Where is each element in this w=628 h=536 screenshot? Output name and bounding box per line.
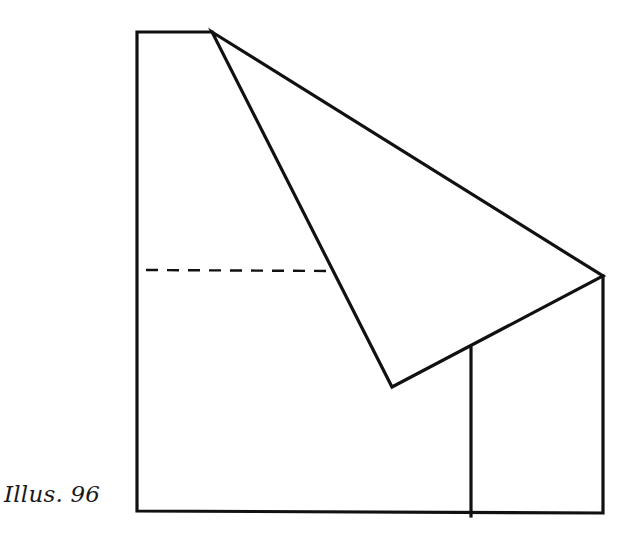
sheet-outline — [137, 32, 603, 513]
fold-diagram — [0, 0, 628, 536]
dashed-fold-line — [146, 270, 332, 271]
folded-flap — [212, 32, 603, 387]
illustration-caption: Illus. 96 — [4, 481, 100, 507]
